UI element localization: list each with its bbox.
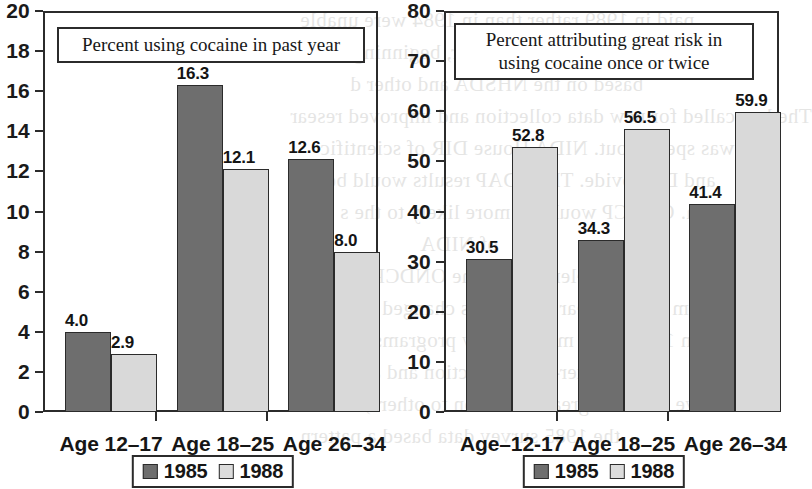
legend-swatch-1988 (610, 464, 625, 479)
legend-label: 1988 (631, 460, 675, 483)
y-axis-tick-label: 12 (6, 159, 35, 183)
bar-value-label: 12.1 (223, 148, 255, 168)
y-axis-tick-label: 10 (6, 200, 35, 224)
y-axis-tick: 50 (407, 149, 444, 173)
y-axis-tick: 20 (407, 300, 444, 324)
legend-swatch-1985 (143, 464, 158, 479)
y-axis-tick-label: 14 (6, 119, 35, 143)
y-axis-tick-mark (35, 130, 43, 132)
y-axis-tick-mark (35, 211, 43, 213)
y-axis-tick: 30 (407, 250, 444, 274)
bar-1985-0 (65, 332, 111, 412)
y-axis-tick-label: 4 (18, 320, 35, 344)
y-axis-tick-mark (436, 261, 444, 263)
bar-value-label: 41.4 (689, 183, 721, 203)
y-axis-tick: 0 (419, 400, 444, 424)
x-axis-category-label: Age 18–25 (572, 432, 675, 456)
y-axis-tick: 16 (6, 79, 43, 103)
bar-value-label: 30.5 (466, 238, 498, 258)
bar-value-label: 56.5 (624, 108, 656, 128)
legend-item-1988: 1988 (219, 460, 284, 483)
bar-value-label: 8.0 (334, 231, 357, 251)
y-axis-tick-label: 8 (18, 240, 35, 264)
y-axis-tick: 8 (18, 240, 43, 264)
y-axis-tick: 2 (18, 360, 43, 384)
x-axis-category-label: Age 26–34 (684, 432, 787, 456)
legend-label: 1988 (240, 460, 284, 483)
legend-swatch-1988 (219, 464, 234, 479)
bar-1985-0 (466, 259, 512, 412)
y-axis-tick: 12 (6, 159, 43, 183)
y-axis-tick: 10 (407, 350, 444, 374)
y-axis-tick-label: 20 (6, 0, 35, 23)
y-axis-tick: 14 (6, 119, 43, 143)
y-axis-tick: 4 (18, 320, 43, 344)
bar-value-label: 4.0 (65, 311, 88, 331)
chart-title-line: Percent attributing great risk in (486, 29, 722, 51)
bar-1988-1 (624, 129, 670, 412)
bar-1988-2 (735, 112, 781, 412)
y-axis-tick: 60 (407, 99, 444, 123)
y-axis-tick-mark (436, 311, 444, 313)
legend-item-1985: 1985 (534, 460, 599, 483)
x-axis-tick (155, 412, 157, 421)
legend-label: 1985 (555, 460, 599, 483)
x-axis-tick (266, 412, 268, 421)
legend-item-1985: 1985 (143, 460, 208, 483)
bar-1988-2 (334, 252, 380, 412)
y-axis-tick: 80 (407, 0, 444, 23)
chart-title-line: Percent using cocaine in past year (82, 34, 340, 56)
y-axis-tick-mark (35, 10, 43, 12)
legend-item-1988: 1988 (610, 460, 675, 483)
y-axis-tick-mark (35, 411, 43, 413)
bar-1985-1 (177, 85, 223, 412)
y-axis-tick-label: 10 (407, 350, 436, 374)
y-axis-tick-mark (35, 331, 43, 333)
x-axis-category-label: Age–12-17 (460, 432, 564, 456)
x-axis-category-label: Age 12–17 (59, 432, 162, 456)
chart-title-left: Percent using cocaine in past year (57, 27, 365, 63)
bar-value-label: 12.6 (288, 138, 320, 158)
bar-1988-1 (223, 169, 269, 412)
bar-1985-1 (578, 240, 624, 412)
y-axis-tick-label: 6 (18, 280, 35, 304)
y-axis-tick: 20 (6, 0, 43, 23)
y-axis-tick-label: 80 (407, 0, 436, 23)
y-axis-tick: 10 (6, 200, 43, 224)
y-axis-tick-mark (436, 60, 444, 62)
x-axis-tick (556, 412, 558, 421)
bar-1988-0 (111, 354, 157, 412)
y-axis-tick-label: 60 (407, 99, 436, 123)
y-axis-tick-mark (35, 170, 43, 172)
y-axis-tick-label: 20 (407, 300, 436, 324)
bar-value-label: 52.8 (512, 126, 544, 146)
y-axis-tick-mark (35, 291, 43, 293)
chart-title-line: using cocaine once or twice (498, 52, 709, 74)
legend-left: 19851988 (132, 455, 294, 488)
bar-value-label: 34.3 (578, 219, 610, 239)
y-axis-tick: 0 (18, 400, 43, 424)
y-axis-tick-label: 30 (407, 250, 436, 274)
y-axis-tick: 6 (18, 280, 43, 304)
y-axis-tick-label: 50 (407, 149, 436, 173)
bar-value-label: 2.9 (111, 333, 134, 353)
y-axis-tick-label: 16 (6, 79, 35, 103)
chart-title-right: Percent attributing great risk inusing c… (454, 23, 754, 80)
bar-value-label: 59.9 (735, 91, 767, 111)
legend-label: 1985 (164, 460, 208, 483)
y-axis-tick: 70 (407, 49, 444, 73)
y-axis-tick-mark (436, 160, 444, 162)
y-axis-tick-mark (35, 90, 43, 92)
bar-1985-2 (288, 159, 334, 412)
y-axis-tick-mark (35, 50, 43, 52)
bar-1985-2 (689, 204, 735, 412)
y-axis-tick-label: 70 (407, 49, 436, 73)
y-axis-tick-label: 18 (6, 39, 35, 63)
y-axis-tick-mark (35, 371, 43, 373)
legend-swatch-1985 (534, 464, 549, 479)
x-axis-tick (667, 412, 669, 421)
y-axis-tick: 40 (407, 200, 444, 224)
y-axis-tick: 18 (6, 39, 43, 63)
bar-value-label: 16.3 (177, 64, 209, 84)
y-axis-tick-label: 0 (419, 400, 436, 424)
